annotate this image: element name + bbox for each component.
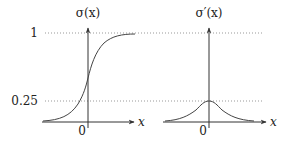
right-x-axis-label: x [270,115,277,129]
sigmoid-curve [43,34,135,121]
left-x-axis-label: x [138,115,145,129]
right-origin-label: 0 [199,124,207,138]
y-tick-0.25: 0.25 [11,94,38,108]
left-origin-label: 0 [78,124,86,138]
y-tick-1: 1 [30,26,38,40]
right-plot-title: σ′(x) [195,6,222,20]
sigmoid-figure: σ(x) 1 0.25 0 x σ′(x) 0 x [0,0,288,141]
left-plot: σ(x) 1 0.25 0 x [11,6,145,138]
left-plot-title: σ(x) [76,6,100,20]
right-plot: σ′(x) 0 x [163,6,277,138]
